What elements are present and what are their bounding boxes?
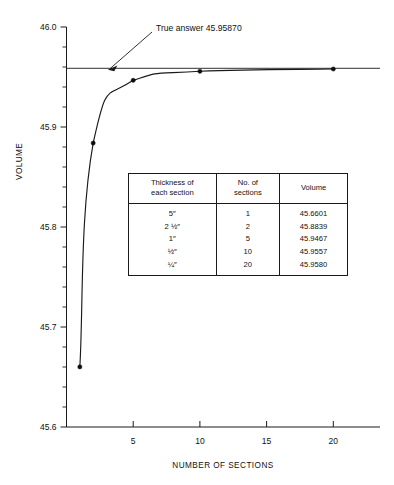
x-tick-label: 5 xyxy=(131,436,136,446)
x-axis-major-ticks xyxy=(133,421,333,427)
table-header-row: Thickness of each section No. of section… xyxy=(129,174,348,204)
table-header-volume: Volume xyxy=(280,174,348,204)
table-header-sections-line1: No. of xyxy=(238,178,258,187)
data-point xyxy=(198,69,202,73)
y-tick-label: 45.9 xyxy=(40,122,57,132)
cell-thickness: 1″ xyxy=(129,233,217,246)
y-tick-label: 45.8 xyxy=(40,222,57,232)
cell-volume: 45.6601 xyxy=(280,204,348,221)
x-axis-tick-labels: 5101520 xyxy=(131,436,338,446)
cell-thickness: 2 ½″ xyxy=(129,220,217,233)
table-row: 5″145.6601 xyxy=(129,204,348,221)
annotation-leader-line xyxy=(110,32,152,69)
x-axis-title: NUMBER OF SECTIONS xyxy=(172,461,273,470)
table-row: 1″545.9467 xyxy=(129,233,348,246)
y-tick-label: 45.6 xyxy=(40,422,57,432)
table-row: 2 ½″245.8839 xyxy=(129,220,348,233)
cell-thickness: ½″ xyxy=(129,246,217,259)
x-tick-label: 20 xyxy=(329,436,339,446)
table-header-volume-line1: Volume xyxy=(301,183,326,192)
table-row: ½″1045.9557 xyxy=(129,246,348,259)
table-header: Thickness of each section No. of section… xyxy=(129,174,348,204)
table-row: ¼″2045.9580 xyxy=(129,258,348,276)
y-tick-label: 46.0 xyxy=(40,22,57,32)
table-header-sections-line2: sections xyxy=(234,188,262,197)
data-point xyxy=(91,141,95,145)
data-point xyxy=(78,365,82,369)
table-header-thickness: Thickness of each section xyxy=(129,174,217,204)
results-table: Thickness of each section No. of section… xyxy=(128,173,348,276)
data-point xyxy=(331,67,335,71)
cell-volume: 45.8839 xyxy=(280,220,348,233)
cell-sections: 5 xyxy=(216,233,280,246)
cell-sections: 2 xyxy=(216,220,280,233)
table-header-sections: No. of sections xyxy=(216,174,280,204)
table-header-thickness-line1: Thickness of xyxy=(151,178,194,187)
true-answer-annotation: True answer 45.95870 xyxy=(156,23,242,33)
cell-sections: 1 xyxy=(216,204,280,221)
cell-sections: 10 xyxy=(216,246,280,259)
y-axis-title: VOLUME xyxy=(15,143,24,180)
cell-volume: 45.9580 xyxy=(280,258,348,276)
table-body: 5″145.66012 ½″245.88391″545.9467½″1045.9… xyxy=(129,204,348,276)
cell-volume: 45.9557 xyxy=(280,246,348,259)
cell-volume: 45.9467 xyxy=(280,233,348,246)
cell-sections: 20 xyxy=(216,258,280,276)
y-axis-tick-labels: 45.645.745.845.946.0 xyxy=(40,22,57,432)
data-point xyxy=(131,78,135,82)
x-tick-label: 15 xyxy=(262,436,272,446)
y-tick-label: 45.7 xyxy=(40,322,57,332)
cell-thickness: 5″ xyxy=(129,204,217,221)
x-tick-label: 10 xyxy=(195,436,205,446)
table-header-thickness-line2: each section xyxy=(151,188,194,197)
figure-container: 45.645.745.845.946.0 5101520 True answer… xyxy=(0,0,394,485)
cell-thickness: ¼″ xyxy=(129,258,217,276)
